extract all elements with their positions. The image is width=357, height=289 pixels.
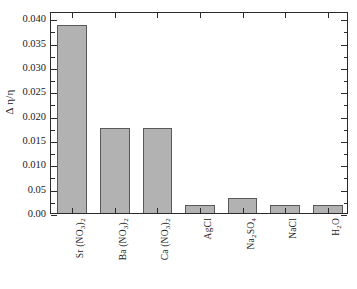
bar-chart-figure: Δ η/η 0.000.050.0100.0150.0200.0250.0300…	[0, 0, 357, 289]
y-tick-label: 0.035	[2, 39, 46, 49]
y-axis-major-tick-right	[341, 166, 347, 167]
y-tick-label: 0.00	[2, 209, 46, 219]
y-tick-label: 0.040	[2, 14, 46, 24]
bar	[143, 128, 173, 213]
y-axis-major-tick	[51, 191, 57, 192]
y-axis-minor-tick	[51, 57, 55, 58]
x-tick-label: AgCl	[203, 218, 213, 239]
bar	[100, 128, 130, 213]
y-axis-major-tick	[51, 142, 57, 143]
y-tick-label: 0.015	[2, 136, 46, 146]
x-axis-tick-top	[285, 13, 286, 18]
y-axis-minor-tick	[51, 32, 55, 33]
y-axis-minor-tick-right	[344, 57, 348, 58]
x-axis-tick	[115, 208, 116, 213]
x-tick-label: Na2SO4	[246, 218, 258, 249]
x-axis-tick	[285, 208, 286, 213]
x-axis-tick	[72, 208, 73, 213]
plot-area	[51, 13, 347, 213]
y-axis-minor-tick-right	[344, 130, 348, 131]
y-tick-label: 0.020	[2, 112, 46, 122]
y-axis-minor-tick	[51, 105, 55, 106]
y-axis-major-tick-right	[341, 118, 347, 119]
y-axis-minor-tick-right	[344, 81, 348, 82]
x-tick-label: Ba (NO3)2	[118, 218, 130, 260]
y-axis-major-tick	[51, 93, 57, 94]
x-axis-tick	[243, 208, 244, 213]
x-axis-tick-top	[115, 13, 116, 18]
x-axis-tick-top	[157, 13, 158, 18]
x-axis-tick-top	[72, 13, 73, 18]
y-axis-major-tick-right	[341, 69, 347, 70]
x-axis-tick-top	[200, 13, 201, 18]
y-axis-minor-tick	[51, 130, 55, 131]
y-axis-minor-tick-right	[344, 32, 348, 33]
y-tick-label: 0.05	[2, 185, 46, 195]
y-axis-minor-tick	[51, 81, 55, 82]
y-axis-major-tick	[51, 20, 57, 21]
y-axis-major-tick-right	[341, 20, 347, 21]
y-axis-minor-tick	[51, 154, 55, 155]
x-tick-label: Sr (NO3)2	[75, 218, 87, 258]
x-tick-label: H2O	[331, 218, 343, 236]
x-axis-tick	[157, 208, 158, 213]
y-axis-major-tick	[51, 166, 57, 167]
y-axis-major-tick	[51, 45, 57, 46]
x-tick-label: Ca (NO3)2	[160, 218, 172, 260]
y-axis-minor-tick-right	[344, 203, 348, 204]
y-axis-minor-tick-right	[344, 105, 348, 106]
y-axis-major-tick-right	[341, 142, 347, 143]
x-axis-tick	[328, 208, 329, 213]
y-axis-minor-tick-right	[344, 178, 348, 179]
y-axis-tick-labels: 0.000.050.0100.0150.0200.0250.0300.0350.…	[0, 0, 46, 289]
y-axis-major-tick	[51, 118, 57, 119]
x-axis-tick-top	[243, 13, 244, 18]
x-axis-tick-labels: Sr (NO3)2Ba (NO3)2Ca (NO3)2AgClNa2SO4NaC…	[50, 214, 348, 289]
y-axis-major-tick	[51, 69, 57, 70]
y-tick-label: 0.010	[2, 160, 46, 170]
y-axis-major-tick-right	[341, 191, 347, 192]
y-axis-minor-tick-right	[344, 154, 348, 155]
plot-frame	[50, 12, 348, 214]
x-axis-tick	[200, 208, 201, 213]
y-tick-label: 0.030	[2, 63, 46, 73]
bar	[57, 25, 87, 213]
x-tick-label: NaCl	[288, 218, 298, 239]
x-axis-tick-top	[328, 13, 329, 18]
y-tick-label: 0.025	[2, 87, 46, 97]
y-axis-minor-tick	[51, 178, 55, 179]
y-axis-major-tick-right	[341, 45, 347, 46]
y-axis-major-tick-right	[341, 93, 347, 94]
y-axis-minor-tick	[51, 203, 55, 204]
